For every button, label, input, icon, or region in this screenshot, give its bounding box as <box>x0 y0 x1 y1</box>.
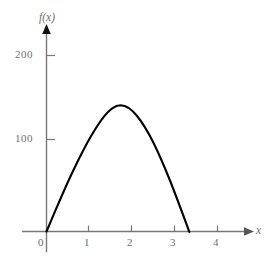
x-tick-label-3: 3 <box>170 236 176 248</box>
x-tick-label-4: 4 <box>213 236 219 248</box>
x-axis-title: x <box>256 224 261 236</box>
figure-container: 200 100 0 1 2 3 4 f(x) x <box>0 0 274 263</box>
x-tick-label-2: 2 <box>127 236 133 248</box>
curve-series-fx <box>47 105 190 232</box>
y-axis-arrow-icon <box>42 24 51 34</box>
y-axis-ticks <box>47 56 56 140</box>
y-tick-label-200: 200 <box>15 48 33 60</box>
chart-canvas <box>0 0 274 263</box>
y-axis-title: f(x) <box>39 11 55 23</box>
x-axis-arrow-icon <box>244 227 254 236</box>
x-tick-label-1: 1 <box>84 236 90 248</box>
x-tick-label-0: 0 <box>38 236 44 248</box>
x-axis-ticks <box>89 226 218 232</box>
y-tick-label-100: 100 <box>15 132 33 144</box>
